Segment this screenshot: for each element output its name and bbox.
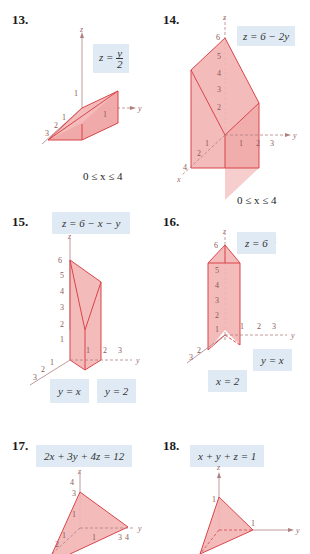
- svg-text:4: 4: [70, 478, 74, 487]
- svg-text:3: 3: [60, 303, 64, 312]
- svg-text:y: y: [292, 131, 297, 140]
- svg-text:6: 6: [216, 33, 220, 42]
- svg-text:3: 3: [118, 346, 122, 355]
- svg-text:3: 3: [45, 129, 49, 138]
- figure-17-solid: z y 431 134 12: [0, 470, 155, 554]
- svg-text:3: 3: [272, 322, 276, 331]
- svg-text:1: 1: [72, 510, 76, 519]
- svg-text:1: 1: [74, 89, 78, 98]
- svg-text:2: 2: [215, 311, 219, 320]
- svg-text:z: z: [67, 232, 72, 241]
- svg-text:4: 4: [217, 69, 221, 78]
- figure-15-solid: z y 654 321 123 123: [0, 230, 155, 370]
- label-box-16-yx: y = x: [253, 349, 292, 371]
- svg-text:4: 4: [60, 287, 64, 296]
- svg-text:1: 1: [62, 113, 66, 122]
- svg-text:1: 1: [212, 495, 216, 504]
- svg-text:1: 1: [50, 358, 54, 367]
- svg-text:y: y: [295, 526, 300, 535]
- svg-text:3: 3: [270, 139, 274, 148]
- svg-text:6: 6: [58, 256, 62, 265]
- svg-text:6: 6: [214, 241, 218, 250]
- equation-box-18: x + y + z = 1: [190, 445, 264, 467]
- svg-text:1: 1: [62, 531, 66, 540]
- problem-number-18: 18.: [163, 438, 179, 454]
- svg-text:5: 5: [215, 266, 219, 275]
- svg-text:y: y: [290, 331, 295, 340]
- svg-text:2: 2: [256, 139, 260, 148]
- svg-text:3: 3: [189, 353, 193, 362]
- svg-text:4: 4: [183, 163, 187, 172]
- figure-13-solid: z y 1 1 1 2 3: [0, 0, 155, 140]
- svg-text:1: 1: [60, 335, 64, 344]
- svg-text:2: 2: [60, 320, 64, 329]
- svg-text:3: 3: [215, 296, 219, 305]
- svg-text:2: 2: [197, 346, 201, 355]
- svg-text:2: 2: [54, 121, 58, 130]
- svg-text:1: 1: [251, 519, 255, 528]
- label-box-15-yx: y = x: [50, 379, 89, 403]
- svg-text:2: 2: [197, 149, 201, 158]
- svg-text:3: 3: [72, 489, 76, 498]
- svg-text:1: 1: [239, 139, 243, 148]
- figure-14-solid: z y x 654 32 123 124: [155, 0, 310, 200]
- svg-text:y: y: [137, 104, 142, 113]
- svg-text:2: 2: [257, 322, 261, 331]
- svg-text:3: 3: [217, 85, 221, 94]
- problem-number-15: 15.: [12, 214, 28, 230]
- svg-text:1: 1: [205, 139, 209, 148]
- figure-18-solid: z y 11: [155, 470, 310, 554]
- z-axis-label: z: [79, 25, 84, 34]
- svg-text:1: 1: [92, 533, 96, 542]
- svg-text:z: z: [77, 467, 82, 476]
- svg-text:3: 3: [118, 533, 122, 542]
- svg-text:z: z: [222, 227, 227, 236]
- svg-text:5: 5: [217, 52, 221, 61]
- svg-text:4: 4: [215, 281, 219, 290]
- svg-text:5: 5: [60, 271, 64, 280]
- svg-text:1: 1: [240, 322, 244, 331]
- svg-text:4: 4: [125, 533, 129, 542]
- svg-text:3: 3: [33, 373, 37, 382]
- svg-text:2: 2: [55, 540, 59, 549]
- svg-text:1: 1: [86, 346, 90, 355]
- svg-text:z: z: [222, 13, 227, 22]
- svg-text:1: 1: [103, 110, 107, 119]
- svg-text:y: y: [135, 356, 140, 365]
- label-box-15-y2: y = 2: [97, 379, 136, 403]
- equation-box-17: 2x + 3y + 4z = 12: [36, 445, 132, 467]
- svg-text:2: 2: [41, 365, 45, 374]
- svg-text:2: 2: [217, 103, 221, 112]
- label-box-16-x2: x = 2: [208, 370, 247, 392]
- svg-text:1: 1: [215, 325, 219, 334]
- svg-text:2: 2: [103, 346, 107, 355]
- svg-text:x: x: [176, 175, 181, 184]
- problem-number-17: 17.: [12, 438, 28, 454]
- figure-16-solid: z y 654 321 123 23: [155, 225, 310, 365]
- svg-text:y: y: [137, 524, 142, 533]
